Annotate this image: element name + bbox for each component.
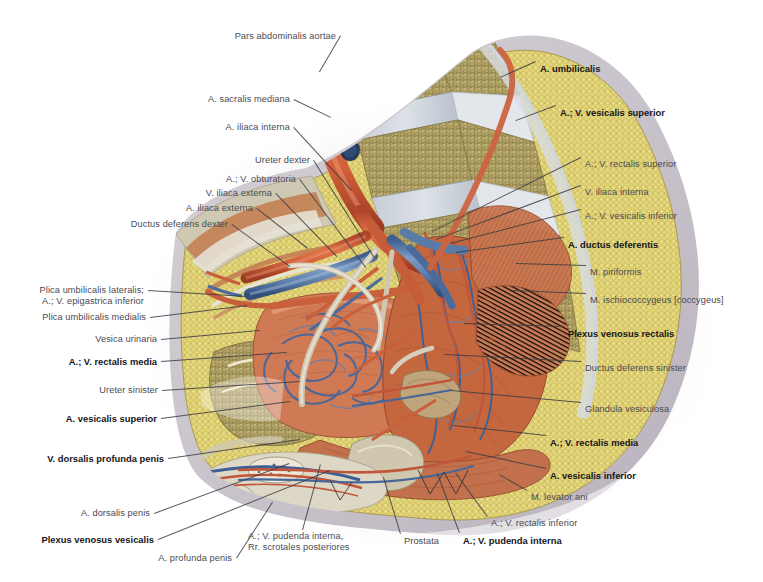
leader-line-plica-umbilicalis-medialis <box>150 305 247 318</box>
label-a-v-pudenda-interna-rr-scrotales: A.; V. pudenda interna, Rr. scrotales po… <box>248 531 350 553</box>
label-m-piriformis: M. piriformis <box>590 267 641 278</box>
leader-line-vesica-urinaria <box>161 330 260 340</box>
label-a-v-obturatoria: A.; V. obturatoria <box>0 174 296 185</box>
label-a-umbilicalis: A. umbilicalis <box>540 63 600 74</box>
label-a-v-vesicalis-inferior: A.; V. vesicalis inferior <box>585 211 677 222</box>
label-v-dorsalis-profunda-penis: V. dorsalis profunda penis <box>0 453 164 464</box>
leader-line-ductus-deferens-sinister <box>444 354 581 362</box>
leader-line-m-ischiococcygeus <box>513 290 586 294</box>
label-plica-umbilicalis-medialis: Plica umbilicalis medialis <box>0 312 146 323</box>
leader-line-prostata <box>383 478 401 534</box>
leader-line-a-v-pudenda-interna-rr-scrotales <box>302 464 321 530</box>
leader-line-a-v-rectalis-media-left <box>161 352 287 362</box>
label-plica-umbilicalis-lateralis: Plica umbilicalis lateralis; A.; V. epig… <box>0 285 144 307</box>
label-a-v-pudenda-interna: A.; V. pudenda interna <box>463 535 562 546</box>
label-ureter-dexter: Ureter dexter <box>0 155 310 166</box>
leader-line-a-vesicalis-inferior <box>466 451 546 469</box>
leader-line-a-vesicalis-superior-left <box>161 401 290 419</box>
label-a-vesicalis-superior-left: A. vesicalis superior <box>0 413 157 424</box>
label-a-sacralis-mediana: A. sacralis mediana <box>0 94 290 105</box>
label-plexus-venosus-vesicalis: Plexus venosus vesicalis <box>0 534 154 545</box>
label-a-iliaca-externa: A. iliaca externa <box>0 203 253 214</box>
leader-line-ureter-sinister <box>162 381 300 391</box>
label-a-v-rectalis-superior: A.; V. rectalis superior <box>585 159 676 170</box>
leader-line-a-umbilicalis <box>500 61 536 78</box>
label-ductus-deferens-sinister: Ductus deferens sinister <box>585 363 686 374</box>
leader-line-plexus-venosus-vesicalis <box>158 470 330 540</box>
label-a-dorsalis-penis: A. dorsalis penis <box>0 508 150 519</box>
label-v-iliaca-externa: V. iliaca externa <box>0 188 272 199</box>
label-ductus-deferens-dexter: Ductus deferens dexter <box>0 219 228 230</box>
label-a-profunda-penis: A. profunda penis <box>0 553 232 564</box>
label-a-v-rectalis-inferior: A.; V. rectalis inferior <box>491 518 577 529</box>
label-m-levator-ani: M. levator ani <box>531 492 588 503</box>
label-v-iliaca-interna: V. iliaca interna <box>585 187 649 198</box>
label-a-v-vesicalis-superior: A.; V. vesicalis superior <box>560 107 665 118</box>
leader-line-a-ductus-deferentis <box>456 237 564 253</box>
leader-line-a-v-rectalis-inferior <box>455 473 488 517</box>
leader-line-a-v-rectalis-media-right <box>454 425 546 436</box>
label-a-v-rectalis-media-right: A.; V. rectalis media <box>550 437 638 448</box>
anatomy-plate: Pars abdominalis aortaeA. sacralis media… <box>0 0 763 582</box>
leader-line-a-iliaca-externa <box>257 208 308 249</box>
leader-line-ductus-deferens-dexter <box>232 224 290 267</box>
label-plexus-venosus-rectalis: Plexus venosus rectalis <box>568 328 674 339</box>
leader-line-a-sacralis-mediana <box>294 99 331 118</box>
leader-line-plexus-venosus-rectalis <box>464 323 564 327</box>
leader-line-m-levator-ani <box>499 474 527 491</box>
label-m-ischiococcygeus: M. ischiococcygeus [coccygeus] <box>590 295 724 306</box>
label-a-v-rectalis-media-left: A.; V. rectalis media <box>0 356 157 367</box>
leader-line-m-piriformis <box>516 263 586 266</box>
label-prostata: Prostata <box>404 536 439 547</box>
leader-line-v-dorsalis-profunda-penis <box>168 439 300 459</box>
leader-line-a-v-pudenda-interna <box>437 474 460 533</box>
label-vesica-urinaria: Vesica urinaria <box>0 334 157 345</box>
leader-line-a-v-vesicalis-superior <box>516 105 556 121</box>
label-pars-abdominalis-aortae: Pars abdominalis aortae <box>0 31 336 42</box>
leader-line-plica-umbilicalis-lateralis <box>148 290 246 297</box>
label-glandula-vesiculosa: Glandula vesiculosa <box>585 404 669 415</box>
label-ureter-sinister: Ureter sinister <box>0 385 158 396</box>
label-a-iliaca-interna: A. iliaca interna <box>0 122 290 133</box>
label-a-ductus-deferentis: A. ductus deferentis <box>568 239 658 250</box>
leader-line-glandula-vesiculosa <box>452 390 581 403</box>
leader-line-a-v-rectalis-superior <box>432 157 581 232</box>
label-a-vesicalis-inferior: A. vesicalis inferior <box>550 470 636 481</box>
